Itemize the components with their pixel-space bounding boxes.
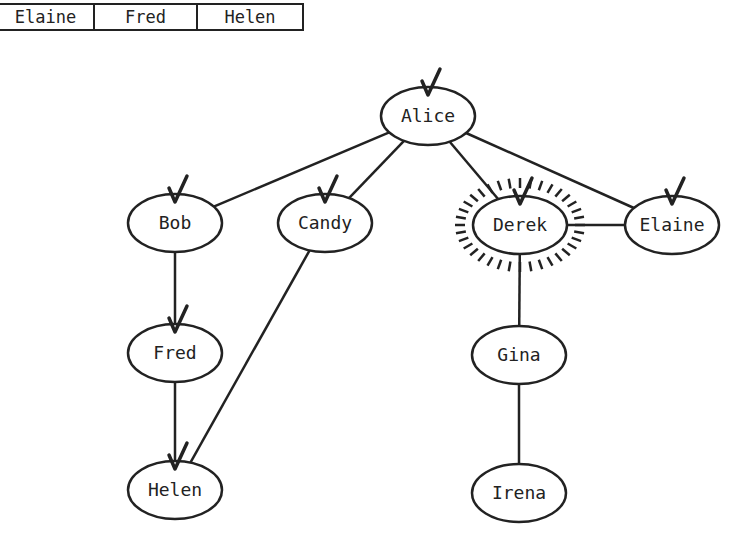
nodes: AliceBobCandyDerekElaineFredHelenGinaIre… [128, 87, 719, 522]
edge-alice-bob [214, 132, 389, 206]
node-label: Gina [497, 344, 540, 365]
highlight-ray [470, 249, 478, 255]
highlight-ray [548, 257, 553, 266]
highlight-ray [539, 181, 542, 190]
highlight-ray [498, 260, 501, 269]
node-irena[interactable]: Irena [472, 464, 566, 522]
highlight-ray [568, 202, 577, 207]
node-label: Helen [148, 479, 202, 500]
highlight-ray [459, 238, 468, 241]
node-label: Elaine [639, 214, 704, 235]
highlight-ray [488, 257, 493, 266]
node-label: Irena [492, 482, 546, 503]
highlight-ray [456, 231, 466, 233]
highlight-ray [509, 179, 511, 189]
highlight-ray [572, 209, 581, 212]
highlight-ray [498, 181, 501, 190]
highlight-ray [574, 217, 584, 219]
node-label: Fred [153, 342, 196, 363]
highlight-ray [572, 238, 581, 241]
highlight-ray [464, 244, 473, 249]
edge-alice-candy [349, 141, 404, 198]
highlight-ray [456, 217, 466, 219]
highlight-ray [562, 195, 570, 201]
edges [175, 132, 634, 464]
highlight-ray [568, 244, 577, 249]
highlight-ray [548, 184, 553, 193]
graph-diagram: AliceBobCandyDerekElaineFredHelenGinaIre… [0, 0, 747, 540]
edge-alice-elaine [466, 133, 634, 208]
node-label: Bob [159, 212, 192, 233]
node-label: Alice [401, 105, 455, 126]
node-label: Derek [493, 214, 547, 235]
highlight-ray [574, 231, 584, 233]
highlight-ray [530, 261, 532, 271]
highlight-ray [509, 261, 511, 271]
highlight-ray [555, 253, 561, 261]
highlight-ray [464, 202, 473, 207]
node-label: Candy [298, 212, 352, 233]
highlight-ray [562, 249, 570, 255]
highlight-ray [478, 253, 484, 261]
highlight-ray [539, 260, 542, 269]
highlight-ray [470, 195, 478, 201]
highlight-ray [478, 189, 484, 197]
node-gina[interactable]: Gina [472, 326, 566, 384]
highlight-ray [555, 189, 561, 197]
highlight-ray [459, 209, 468, 212]
